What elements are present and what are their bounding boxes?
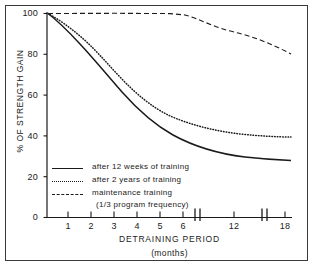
legend-swatch-solid-icon: [52, 168, 83, 169]
legend-swatch-dotted-icon: [52, 181, 83, 182]
x-axis-title: DETRAINING PERIOD: [47, 234, 292, 244]
x-tick-label-3: 3: [106, 221, 122, 231]
legend-label-maintenance-training: maintenance training: [92, 188, 172, 197]
y-tick-label-0: 0: [12, 212, 38, 222]
axis-break-marks: [195, 209, 267, 222]
x-axis-units: (months): [47, 248, 292, 258]
x-tick-label-18: 18: [277, 221, 293, 231]
x-tick-label-6: 6: [175, 221, 191, 231]
legend-label-program-frequency: (1/3 program frequency): [96, 200, 189, 209]
y-tick-label-100: 100: [12, 8, 38, 18]
series-after-12-weeks: [48, 14, 291, 161]
x-tick-marks: [68, 212, 285, 218]
x-tick-label-12: 12: [226, 221, 242, 231]
y-tick-label-20: 20: [12, 172, 38, 182]
figure-container: 100 80 60 40 20 0 1 2 3 4 5 6 12 18 % OF…: [0, 0, 315, 268]
legend-label-after-2-years: after 2 years of training: [92, 175, 181, 184]
x-tick-label-1: 1: [60, 221, 76, 231]
x-tick-label-5: 5: [152, 221, 168, 231]
x-tick-label-2: 2: [83, 221, 99, 231]
legend-swatch-dashed-icon: [52, 194, 83, 195]
legend-label-after-12-weeks: after 12 weeks of training: [92, 162, 189, 171]
y-axis-title: % OF STRENGTH GAIN: [15, 43, 25, 159]
series-after-2-years: [48, 14, 291, 138]
x-tick-label-4: 4: [129, 221, 145, 231]
